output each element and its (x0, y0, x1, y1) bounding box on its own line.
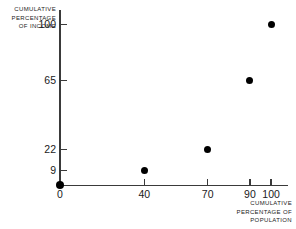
y-axis-tick-label: 100 (16, 18, 56, 30)
x-axis-tick-label: 70 (188, 188, 228, 200)
data-point (56, 181, 64, 189)
data-point (246, 77, 253, 84)
x-axis-tick (270, 179, 271, 185)
x-axis-tick-label: 40 (124, 188, 164, 200)
x-axis-title-line-2: PERCENTAGE OF (196, 208, 292, 217)
data-point (204, 146, 211, 153)
y-axis-tick-label: 22 (16, 143, 56, 155)
x-axis-tick (249, 179, 250, 185)
y-axis-tick (61, 80, 67, 81)
y-axis-tick (61, 170, 67, 171)
x-axis-tick-label: 0 (40, 188, 80, 200)
x-axis-title: CUMULATIVE PERCENTAGE OF POPULATION (196, 199, 292, 225)
lorenz-curve-scatter-chart: CUMULATIVE PERCENTAGE OF INCOME CUMULATI… (0, 0, 296, 229)
x-axis-tick (207, 179, 208, 185)
y-axis-tick (61, 24, 67, 25)
x-axis-line (59, 185, 288, 187)
x-axis-title-line-1: CUMULATIVE (196, 199, 292, 208)
x-axis-title-line-3: POPULATION (196, 216, 292, 225)
y-axis-line (59, 10, 61, 186)
x-axis-tick-label: 100 (251, 188, 291, 200)
y-axis-title-line-1: CUMULATIVE (0, 5, 56, 14)
y-axis-tick (61, 149, 67, 150)
data-point (141, 167, 148, 174)
y-axis-tick-label: 65 (16, 74, 56, 86)
y-axis-tick-label: 9 (16, 164, 56, 176)
data-point (268, 21, 275, 28)
x-axis-tick (144, 179, 145, 185)
